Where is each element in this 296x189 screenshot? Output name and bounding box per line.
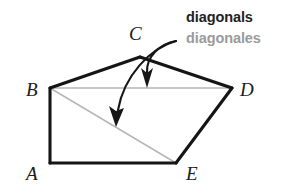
vertex-label-c: C [129,23,142,44]
callout-label-spanish: diagonales [186,30,261,46]
edge-cd [140,57,232,88]
figure-container: A B C D E diagonals diagonales [0,0,296,189]
vertex-label-b: B [26,79,38,100]
geometry-figure: A B C D E diagonals diagonales [0,0,296,189]
callout-arrows-group [109,41,176,127]
callout-text-group: diagonals diagonales [186,9,261,46]
vertex-label-e: E [185,163,198,184]
callout-label-english: diagonals [186,9,253,25]
diagonal-be [50,88,176,163]
vertex-label-a: A [24,163,38,184]
vertex-label-d: D [239,79,254,100]
polygon-edges-group [50,57,232,163]
edge-de [176,88,232,163]
